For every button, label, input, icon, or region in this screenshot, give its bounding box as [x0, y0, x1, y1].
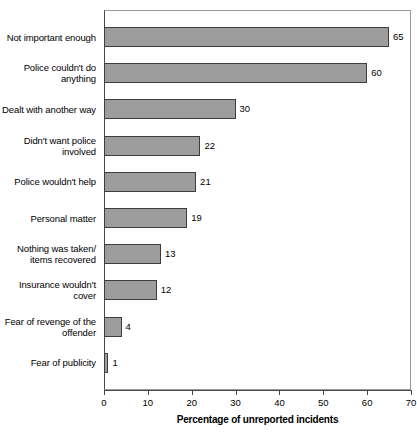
bar-value-label: 30 — [240, 99, 251, 119]
x-axis-title: Percentage of unreported incidents — [104, 414, 411, 425]
category-label: Fear of publicity — [0, 357, 96, 368]
x-axis-tick — [236, 390, 237, 395]
x-axis-tick — [367, 390, 368, 395]
x-axis-tick-label: 0 — [89, 397, 119, 408]
bar-value-label: 4 — [126, 317, 131, 337]
x-axis-tick-label: 30 — [221, 397, 251, 408]
x-axis-tick-label: 50 — [308, 397, 338, 408]
x-axis-tick — [192, 390, 193, 395]
bar-value-label: 21 — [200, 172, 211, 192]
x-axis-tick-label: 70 — [396, 397, 417, 408]
category-label: Dealt with another way — [0, 104, 96, 115]
bar — [104, 353, 108, 373]
bar — [104, 244, 161, 264]
x-axis-tick — [104, 390, 105, 395]
category-label: Fear of revenge of theoffender — [0, 316, 96, 338]
bar — [104, 63, 367, 83]
category-label: Didn't want policeinvolved — [0, 135, 96, 157]
bar — [104, 136, 200, 156]
category-label: Police couldn't doanything — [0, 62, 96, 84]
x-axis-tick — [279, 390, 280, 395]
x-axis-tick-label: 60 — [352, 397, 382, 408]
x-axis-tick-label: 40 — [264, 397, 294, 408]
bar-value-label: 12 — [161, 280, 172, 300]
bar-value-label: 65 — [393, 27, 404, 47]
x-axis-tick-label: 20 — [177, 397, 207, 408]
bars-layer: 656030222119131241 — [104, 10, 411, 390]
category-label: Police wouldn't help — [0, 176, 96, 187]
bar-value-label: 60 — [371, 63, 382, 83]
bar — [104, 280, 157, 300]
bar — [104, 317, 122, 337]
category-label: Personal matter — [0, 213, 96, 224]
bar-chart: Not important enoughPolice couldn't doan… — [0, 0, 417, 436]
bar-value-label: 19 — [191, 208, 202, 228]
x-axis-line — [104, 390, 411, 391]
bar — [104, 172, 196, 192]
x-axis-tick — [323, 390, 324, 395]
category-axis-labels: Not important enoughPolice couldn't doan… — [0, 0, 100, 390]
category-label: Insurance wouldn'tcover — [0, 279, 96, 301]
bar-value-label: 1 — [112, 353, 117, 373]
category-label: Not important enough — [0, 32, 96, 43]
bar-value-label: 13 — [165, 244, 176, 264]
bar-value-label: 22 — [204, 136, 215, 156]
x-axis-tick — [411, 390, 412, 395]
x-axis-tick — [148, 390, 149, 395]
category-label: Nothing was taken/items recovered — [0, 243, 96, 265]
x-axis-tick-label: 10 — [133, 397, 163, 408]
bar — [104, 208, 187, 228]
bar — [104, 99, 236, 119]
bar — [104, 27, 389, 47]
